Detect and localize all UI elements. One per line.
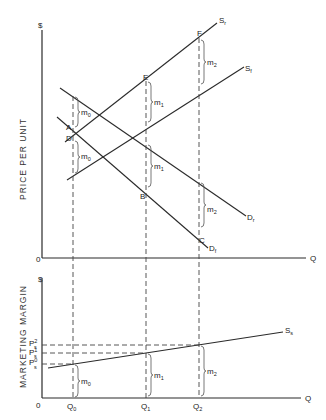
margin-diagram: $ Q 0 PRICE PER UNIT Sr Sf Dr Df A D B C… [0,0,326,420]
bottom-y-axis-label: MARKETING MARGIN [18,285,28,388]
top-origin-label: 0 [36,255,41,264]
supply-retail-label: Sr [219,16,226,26]
bottom-m0-label: m0 [81,377,91,387]
top-x-axis-label: Q [310,254,316,263]
m2-upper-brace [201,40,206,84]
point-a-label: A [66,123,72,132]
bottom-x-axis-label: Q [305,394,311,403]
demand-retail-label: Dr [247,213,255,223]
m1-upper-brace [148,82,153,122]
q2-label: Q2 [193,402,202,412]
m2-lower-brace [201,183,206,227]
m0-upper-label: m0 [81,108,91,118]
bottom-m2-brace [201,346,206,396]
point-c-label: C [199,236,205,245]
point-b-label: B [140,192,145,201]
m1-upper-label: m1 [154,98,164,108]
point-e-label: E [143,73,148,82]
bottom-m1-brace [148,354,153,396]
top-y-axis-label: PRICE PER UNIT [18,118,28,200]
bottom-y-axis-symbol: $ [38,275,43,284]
bottom-m0-brace [75,365,80,397]
m0-lower-label: m0 [81,152,91,162]
supply-services-curve [48,332,283,368]
supply-retail-curve [65,23,217,142]
point-f-label: F [197,29,202,38]
m2-lower-label: m2 [207,205,217,215]
q1-label: Q1 [141,402,150,412]
m0-lower-brace [75,141,80,173]
q0-label: Q0 [67,402,76,412]
ps0-sub: s [34,364,37,370]
point-d-label: D [66,134,72,143]
supply-services-label: Ss [285,326,293,336]
demand-retail-curve [60,88,246,216]
m2-upper-label: m2 [207,58,217,68]
bottom-origin-label: 0 [36,401,41,410]
m1-lower-label: m1 [154,162,164,172]
supply-farm-label: Sf [245,64,252,74]
bottom-m2-label: m2 [207,367,217,377]
demand-farm-curve [57,117,208,248]
demand-farm-label: Df [209,244,217,254]
bottom-m1-label: m1 [154,371,164,381]
top-y-axis-symbol: $ [38,21,43,30]
